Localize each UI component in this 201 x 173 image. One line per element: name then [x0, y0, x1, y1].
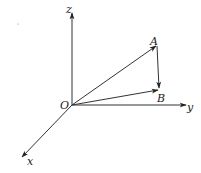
vector-AB — [157, 46, 159, 88]
y-axis-label: y — [186, 101, 194, 114]
speck-dot — [17, 23, 18, 24]
origin-label: O — [60, 99, 69, 112]
z-axis-label: z — [65, 3, 72, 16]
vector-diagram: z y x O A B — [0, 0, 201, 173]
point-B-label: B — [156, 92, 165, 105]
x-axis — [22, 105, 72, 157]
x-axis-label: x — [27, 155, 34, 168]
vector-OA — [72, 46, 156, 105]
vector-OB — [72, 90, 158, 105]
point-A-label: A — [149, 35, 158, 48]
